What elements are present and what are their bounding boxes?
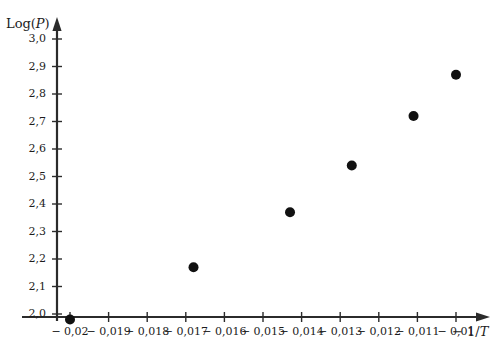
y-axis-tick-label: 2,8 xyxy=(0,87,46,100)
x-axis-tick-label: − 0,01 xyxy=(426,325,486,338)
y-axis-tick-label: 2,9 xyxy=(0,60,46,73)
plot-area xyxy=(0,0,496,351)
data-point xyxy=(189,262,199,272)
y-axis-tick-label: 2,7 xyxy=(0,115,46,128)
y-axis-label-close: ) xyxy=(45,16,50,31)
y-axis-label: Log(P) xyxy=(6,16,50,31)
y-axis-tick-label: 2,2 xyxy=(0,252,46,265)
y-axis-tick-label: 2,0 xyxy=(0,307,46,320)
data-point xyxy=(285,207,295,217)
scatter-chart: Log(P) − 1/T 2,02,12,22,32,42,52,62,72,8… xyxy=(0,0,496,351)
y-axis-tick-label: 2,5 xyxy=(0,170,46,183)
y-axis-tick-label: 3,0 xyxy=(0,32,46,45)
y-axis-tick-label: 2,4 xyxy=(0,197,46,210)
x-axis-arrow-icon xyxy=(476,312,490,321)
data-point xyxy=(347,161,357,171)
y-axis-label-variable: P xyxy=(36,16,45,31)
data-point xyxy=(65,315,75,325)
data-point xyxy=(451,70,461,80)
data-point xyxy=(409,111,419,121)
y-axis-tick-label: 2,6 xyxy=(0,142,46,155)
data-point-group xyxy=(65,70,461,325)
y-axis-label-main: Log( xyxy=(6,16,36,31)
y-axis-tick-label: 2,1 xyxy=(0,280,46,293)
y-axis-tick-label: 2,3 xyxy=(0,225,46,238)
y-axis-arrow-icon xyxy=(52,17,61,31)
